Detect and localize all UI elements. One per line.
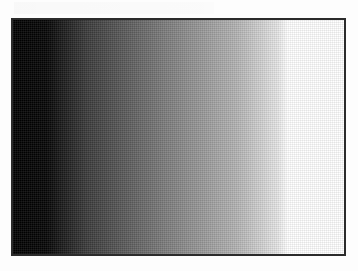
faint-bleed-through <box>14 2 214 14</box>
grayscale-gradient-ramp <box>13 20 344 254</box>
gradient-frame <box>11 18 346 256</box>
image-canvas <box>0 0 358 271</box>
